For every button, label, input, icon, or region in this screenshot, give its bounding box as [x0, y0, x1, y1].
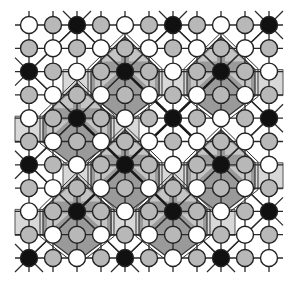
black-node: [117, 250, 134, 267]
white-node: [189, 40, 206, 57]
black-node: [117, 63, 134, 80]
white-node: [45, 180, 62, 197]
gray-node: [261, 86, 278, 103]
gray-node: [237, 250, 254, 267]
white-node: [237, 86, 254, 103]
white-node: [189, 133, 206, 150]
gray-node: [93, 250, 110, 267]
black-node: [69, 110, 86, 127]
gray-node: [165, 40, 182, 57]
gray-node: [261, 226, 278, 243]
gray-node: [165, 133, 182, 150]
gray-node: [189, 156, 206, 173]
gray-node: [45, 63, 62, 80]
gray-node: [189, 203, 206, 220]
gray-node: [117, 226, 134, 243]
black-node: [21, 63, 38, 80]
black-node: [21, 156, 38, 173]
white-node: [237, 226, 254, 243]
white-node: [237, 40, 254, 57]
white-node: [237, 133, 254, 150]
white-node: [117, 110, 134, 127]
gray-node: [237, 203, 254, 220]
gray-node: [261, 180, 278, 197]
gray-node: [213, 226, 230, 243]
white-node: [21, 203, 38, 220]
lattice-diagram: [0, 0, 295, 288]
black-node: [213, 63, 230, 80]
gray-node: [21, 86, 38, 103]
black-node: [213, 250, 230, 267]
gray-node: [45, 110, 62, 127]
white-node: [141, 86, 158, 103]
gray-node: [45, 156, 62, 173]
gray-node: [93, 110, 110, 127]
black-node: [117, 156, 134, 173]
white-node: [165, 63, 182, 80]
gray-node: [21, 40, 38, 57]
white-node: [141, 40, 158, 57]
black-node: [261, 203, 278, 220]
white-node: [141, 226, 158, 243]
gray-node: [45, 250, 62, 267]
gray-node: [117, 180, 134, 197]
white-node: [21, 110, 38, 127]
gray-node: [213, 180, 230, 197]
white-node: [45, 86, 62, 103]
gray-node: [45, 203, 62, 220]
white-node: [165, 250, 182, 267]
gray-node: [93, 203, 110, 220]
gray-node: [237, 17, 254, 34]
white-node: [189, 226, 206, 243]
white-node: [213, 110, 230, 127]
gray-node: [165, 86, 182, 103]
gray-node: [213, 40, 230, 57]
gray-node: [141, 156, 158, 173]
gray-node: [93, 63, 110, 80]
white-node: [93, 86, 110, 103]
gray-node: [117, 133, 134, 150]
gray-node: [93, 17, 110, 34]
black-node: [21, 250, 38, 267]
white-node: [213, 17, 230, 34]
white-node: [93, 133, 110, 150]
gray-node: [117, 40, 134, 57]
white-node: [69, 63, 86, 80]
white-node: [189, 86, 206, 103]
black-node: [261, 17, 278, 34]
lattice-nodes: [21, 17, 278, 267]
black-node: [213, 156, 230, 173]
gray-node: [165, 226, 182, 243]
gray-node: [237, 110, 254, 127]
gray-node: [69, 86, 86, 103]
black-node: [165, 17, 182, 34]
gray-node: [213, 133, 230, 150]
gray-node: [213, 86, 230, 103]
gray-node: [21, 180, 38, 197]
white-node: [117, 17, 134, 34]
gray-node: [189, 17, 206, 34]
gray-node: [69, 40, 86, 57]
white-node: [237, 180, 254, 197]
gray-node: [141, 17, 158, 34]
white-node: [189, 180, 206, 197]
gray-node: [189, 250, 206, 267]
gray-node: [189, 63, 206, 80]
gray-node: [261, 133, 278, 150]
gray-node: [141, 250, 158, 267]
gray-node: [69, 180, 86, 197]
black-node: [69, 17, 86, 34]
gray-node: [237, 63, 254, 80]
gray-node: [141, 203, 158, 220]
gray-node: [21, 133, 38, 150]
gray-node: [261, 40, 278, 57]
gray-node: [237, 156, 254, 173]
gray-node: [69, 133, 86, 150]
white-node: [45, 40, 62, 57]
gray-node: [141, 110, 158, 127]
white-node: [213, 203, 230, 220]
black-node: [165, 203, 182, 220]
white-node: [141, 180, 158, 197]
gray-node: [69, 226, 86, 243]
white-node: [45, 226, 62, 243]
